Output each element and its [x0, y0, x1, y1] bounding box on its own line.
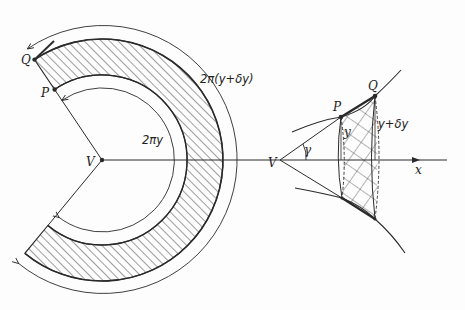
label-radius-y: y	[343, 125, 351, 139]
label-x-axis: x	[415, 163, 422, 177]
generator-line-vp	[55, 90, 102, 161]
cone-development-diagram: Q P V 2πy 2π(y+δy)	[0, 0, 465, 310]
label-v: V	[86, 155, 96, 169]
vertex-point-v	[100, 158, 104, 162]
label-q: Q	[21, 53, 31, 67]
diagram-canvas: Q P V 2πy 2π(y+δy)	[0, 0, 465, 310]
point-q-lower	[373, 217, 376, 220]
label-q-right: Q	[368, 79, 378, 93]
surface-of-revolution-element: P Q V γ y y+δy x	[268, 70, 447, 253]
label-p: P	[40, 86, 50, 100]
label-v-right: V	[268, 156, 278, 170]
point-p	[52, 87, 56, 91]
point-p-right	[339, 115, 344, 120]
disk-p-front	[338, 117, 342, 198]
tangent-line-lower	[280, 160, 342, 198]
point-q-right	[373, 94, 378, 99]
developed-cone-strip: Q P V 2πy 2π(y+δy)	[18, 25, 272, 293]
generator-line-lower	[48, 160, 102, 226]
label-radius-y-plus-dy: y+δy	[377, 117, 408, 131]
label-outer-arc: 2π(y+δy)	[200, 72, 254, 86]
label-inner-arc: 2πy	[142, 133, 163, 147]
point-p-lower	[340, 196, 343, 199]
label-p-right: P	[332, 100, 342, 114]
label-gamma: γ	[304, 143, 312, 157]
